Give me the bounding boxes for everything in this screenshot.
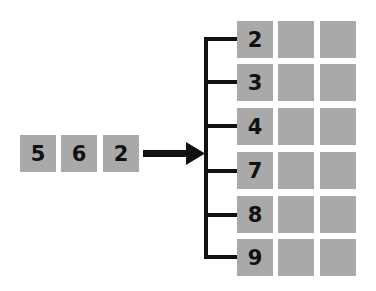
bracket-branch	[204, 80, 237, 84]
output-label-cell: 4	[237, 108, 273, 145]
empty-cell	[278, 108, 314, 145]
empty-cell	[320, 152, 356, 189]
bracket-branch	[204, 213, 237, 217]
bracket-branch	[204, 255, 237, 259]
bracket-vertical-line	[204, 37, 208, 259]
output-label-cell: 3	[237, 64, 273, 101]
empty-cell	[320, 21, 356, 58]
empty-cell	[320, 64, 356, 101]
output-label-cell: 8	[237, 196, 273, 233]
empty-cell	[320, 239, 356, 276]
empty-cell	[278, 196, 314, 233]
empty-cell	[278, 21, 314, 58]
output-label-cell: 7	[237, 152, 273, 189]
output-label-cell: 9	[237, 239, 273, 276]
output-label-cell: 2	[237, 21, 273, 58]
empty-cell	[278, 152, 314, 189]
empty-cell	[320, 108, 356, 145]
empty-cell	[278, 64, 314, 101]
bracket-branch	[204, 37, 237, 41]
bracket-branch	[204, 124, 237, 128]
empty-cell	[320, 196, 356, 233]
bracket-branch	[204, 169, 237, 173]
empty-cell	[278, 239, 314, 276]
